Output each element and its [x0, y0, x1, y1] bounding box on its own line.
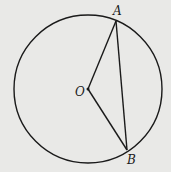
radius-oa — [88, 21, 116, 89]
chord-ab — [116, 21, 127, 150]
circle-diagram: A B O — [0, 0, 171, 172]
radius-ob — [88, 89, 127, 150]
center-point — [87, 88, 90, 91]
label-b: B — [126, 153, 136, 167]
label-a: A — [112, 4, 122, 18]
label-o: O — [75, 85, 85, 99]
diagram-canvas: A B O — [0, 0, 171, 172]
